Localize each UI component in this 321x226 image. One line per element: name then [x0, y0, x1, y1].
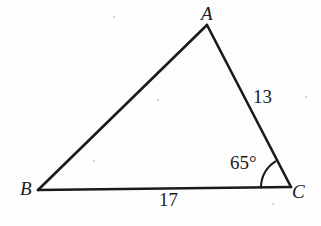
vertex-label-c: C: [292, 182, 305, 201]
scan-speck: [305, 96, 307, 98]
side-length-label-ac: 13: [253, 87, 272, 106]
vertex-label-a: A: [201, 4, 213, 23]
triangle-side-ab: [38, 25, 207, 190]
scan-speck: [93, 160, 95, 162]
scan-speck: [272, 203, 274, 205]
scan-speck: [113, 16, 115, 18]
vertex-label-b: B: [20, 179, 32, 198]
triangle-figure: A B C 13 17 65°: [0, 0, 321, 226]
angle-arc-c: [261, 161, 276, 187]
scan-speck: [157, 99, 159, 101]
angle-measure-label-c: 65°: [230, 153, 257, 172]
side-length-label-bc: 17: [159, 190, 178, 209]
